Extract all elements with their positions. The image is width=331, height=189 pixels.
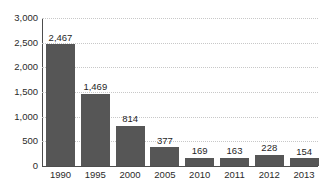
bar-slot: 169 [185, 18, 214, 166]
bar[interactable] [116, 126, 145, 166]
bar-slot: 1,469 [81, 18, 110, 166]
bar-slot: 228 [255, 18, 284, 166]
bar-slot: 377 [150, 18, 179, 166]
y-axis-tick-label: 0 [33, 161, 38, 171]
bar[interactable] [185, 158, 214, 166]
bar-slot: 814 [116, 18, 145, 166]
bar-slot: 2,467 [46, 18, 75, 166]
x-axis-tick-label: 2005 [150, 170, 179, 180]
y-axis-tick-label: 1,000 [14, 112, 38, 122]
y-axis-tick-label: 2,000 [14, 63, 38, 73]
y-axis-tick-label: 500 [22, 137, 38, 147]
bar-value-label: 228 [261, 143, 277, 153]
bar-value-label: 154 [296, 147, 312, 157]
bar-value-label: 814 [122, 114, 138, 124]
bar-value-label: 163 [227, 146, 243, 156]
bar-value-label: 1,469 [83, 82, 107, 92]
x-axis-tick-label: 1995 [81, 170, 110, 180]
bar[interactable] [220, 158, 249, 166]
bar[interactable] [255, 155, 284, 166]
x-axis-tick-label: 2013 [290, 170, 319, 180]
axis-baseline [42, 166, 318, 167]
x-axis-tick-label: 2011 [220, 170, 249, 180]
bar-value-label: 2,467 [49, 33, 73, 43]
x-axis-tick-label: 2000 [116, 170, 145, 180]
bar[interactable] [81, 94, 110, 166]
bar-value-label: 377 [157, 136, 173, 146]
plot-area: 2,4671,469814377169163228154 [42, 18, 318, 166]
y-axis-tick-label: 2,500 [14, 38, 38, 48]
y-axis-tick-labels: 3,0002,5002,0001,5001,0005000 [0, 0, 38, 189]
bar-value-label: 169 [192, 146, 208, 156]
bar-chart: 3,0002,5002,0001,5001,0005000 2,4671,469… [0, 0, 331, 189]
bar-slot: 154 [290, 18, 319, 166]
bar[interactable] [150, 147, 179, 166]
x-axis-tick-label: 2010 [185, 170, 214, 180]
x-axis-tick-label: 2012 [255, 170, 284, 180]
y-axis-tick-label: 1,500 [14, 87, 38, 97]
bar[interactable] [46, 44, 75, 166]
bar[interactable] [290, 158, 319, 166]
bar-slot: 163 [220, 18, 249, 166]
x-axis-tick-label: 1990 [46, 170, 75, 180]
x-axis-tick-labels: 19901995200020052010201120122013 [42, 170, 318, 186]
y-axis-tick-label: 3,000 [14, 13, 38, 23]
